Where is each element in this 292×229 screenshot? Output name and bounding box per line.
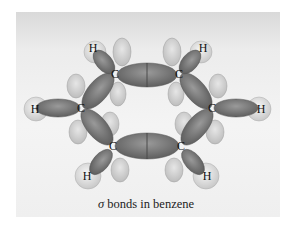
carbon-label: C (109, 139, 117, 153)
carbon-label: C (77, 101, 85, 115)
hydrogen-label: H (199, 41, 208, 55)
hydrogen-label: H (257, 102, 266, 116)
carbon-label: C (208, 101, 216, 115)
carbon-label: C (111, 67, 119, 81)
caption-text: bonds in benzene (104, 197, 194, 211)
benzene-sigma-bonds-diagram: C C C C C C H H H H H H (0, 0, 292, 229)
hydrogen-label: H (83, 169, 92, 183)
hydrogen-label: H (203, 169, 212, 183)
hydrogen-label: H (31, 102, 40, 116)
carbon-label: C (177, 139, 185, 153)
carbon-label: C (175, 67, 183, 81)
hydrogen-label: H (89, 41, 98, 55)
figure-caption: σ bonds in benzene (0, 197, 292, 212)
